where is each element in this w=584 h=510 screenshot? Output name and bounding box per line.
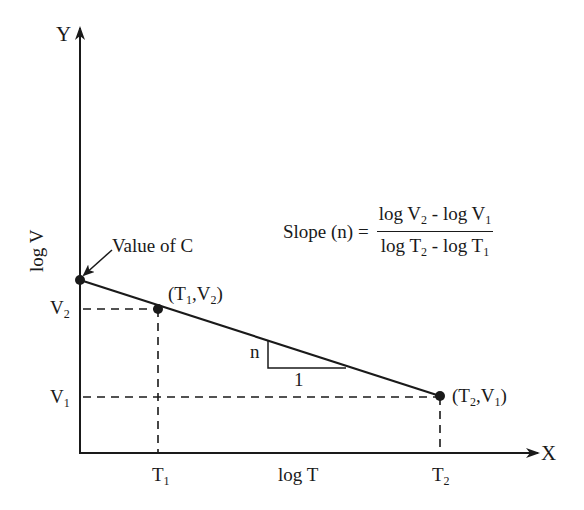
tick-base: T: [432, 464, 444, 485]
point-label-t2-v1: (T2,V1): [452, 386, 507, 408]
num-a: log V: [379, 203, 421, 224]
point-label-t1-v2: (T1,V2): [168, 284, 223, 306]
point-t1-v2: [153, 304, 163, 314]
coord-a: T: [174, 283, 186, 304]
dashed-guides: [83, 309, 440, 452]
x-axis-letter: X: [541, 443, 556, 464]
x-tick-t1: T1: [152, 465, 170, 487]
formula-denominator: log T2 - log T1: [379, 232, 491, 260]
x-axis-label: log T: [278, 465, 318, 484]
coord-a: T: [458, 385, 470, 406]
tick-base: T: [152, 464, 164, 485]
point-t2-v1: [435, 391, 445, 401]
slope-run-label: 1: [294, 370, 304, 389]
tick-sub: 2: [64, 307, 70, 321]
x-tick-t2: T2: [432, 465, 450, 487]
log-line: [80, 280, 440, 396]
formula-numerator: log V2 - log V1: [377, 203, 494, 232]
den-mid: - log T: [427, 235, 483, 256]
den-a: log T: [381, 235, 421, 256]
tick-sub: 1: [164, 474, 170, 488]
den-b-sub: 1: [483, 245, 489, 259]
y-tick-v2: V2: [50, 298, 70, 320]
formula-lhs: Slope (n) =: [283, 221, 369, 243]
y-axis-letter: Y: [56, 24, 71, 45]
slope-formula: Slope (n) = log V2 - log V1 log T2 - log…: [283, 203, 493, 260]
num-b-sub: 1: [485, 213, 491, 227]
y-axis-label: log V: [27, 230, 46, 272]
num-mid: - log V: [427, 203, 485, 224]
tick-sub: 2: [444, 474, 450, 488]
y-tick-v1: V1: [50, 387, 70, 409]
annotation-arrow: [84, 250, 112, 275]
formula-fraction: log V2 - log V1 log T2 - log T1: [377, 203, 494, 260]
tick-base: V: [50, 386, 64, 407]
coord-b: V: [197, 283, 211, 304]
paren: ): [500, 385, 506, 406]
tick-base: V: [50, 297, 64, 318]
tick-sub: 1: [64, 396, 70, 410]
intercept-point: [75, 275, 85, 285]
paren: ): [216, 283, 222, 304]
slope-rise-label: n: [250, 342, 260, 361]
intercept-annotation: Value of C: [112, 236, 193, 255]
coord-b: V: [481, 385, 495, 406]
